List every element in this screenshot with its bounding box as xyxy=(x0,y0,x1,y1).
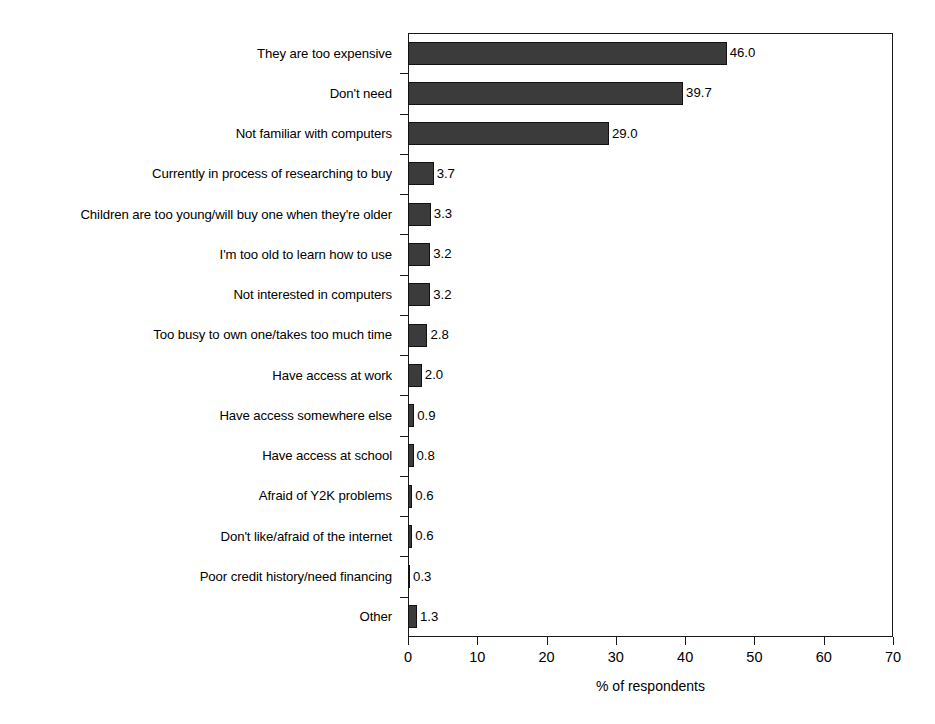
bar-value-label: 2.0 xyxy=(422,369,443,382)
bar-value-label: 0.6 xyxy=(412,530,433,543)
bar-row: 29.0 xyxy=(408,122,893,145)
category-label: They are too expensive xyxy=(0,47,392,60)
x-axis-tick-label: 40 xyxy=(665,650,705,665)
y-axis-tick xyxy=(400,556,408,557)
bar-row: 3.3 xyxy=(408,203,893,226)
y-axis-tick xyxy=(400,476,408,477)
bar-row: 0.8 xyxy=(408,444,893,467)
bar-row: 3.2 xyxy=(408,283,893,306)
x-axis-tick xyxy=(547,637,548,645)
category-label: Have access at work xyxy=(0,369,392,382)
category-label: Not familiar with computers xyxy=(0,127,392,140)
x-axis-tick xyxy=(685,637,686,645)
x-axis-tick-label: 50 xyxy=(734,650,774,665)
bar-value-label: 0.3 xyxy=(410,570,431,583)
x-axis-tick-label: 20 xyxy=(527,650,567,665)
y-axis-tick xyxy=(400,275,408,276)
x-axis-tick-label: 0 xyxy=(388,650,428,665)
bar-value-label: 0.6 xyxy=(412,489,433,502)
x-axis-tick-label: 10 xyxy=(457,650,497,665)
x-axis-title: % of respondents xyxy=(408,678,893,694)
bar-value-label: 3.3 xyxy=(431,208,452,221)
x-axis-tick xyxy=(893,637,894,645)
bar xyxy=(408,283,430,306)
x-axis-tick xyxy=(477,637,478,645)
y-axis-tick xyxy=(400,355,408,356)
bar-value-label: 1.3 xyxy=(417,610,438,623)
category-label: Other xyxy=(0,610,392,623)
bars-layer: 46.039.729.03.73.33.23.22.82.00.90.80.60… xyxy=(408,33,893,637)
category-label: Have access somewhere else xyxy=(0,409,392,422)
category-label: Too busy to own one/takes too much time xyxy=(0,328,392,341)
y-axis-tick xyxy=(400,315,408,316)
bar-row: 3.2 xyxy=(408,243,893,266)
bar-row: 2.8 xyxy=(408,324,893,347)
bar-value-label: 29.0 xyxy=(609,127,638,140)
bar xyxy=(408,203,431,226)
bar-row: 0.3 xyxy=(408,565,893,588)
bar-row: 2.0 xyxy=(408,364,893,387)
category-label: Currently in process of researching to b… xyxy=(0,167,392,180)
y-axis-tick xyxy=(400,436,408,437)
bar-value-label: 2.8 xyxy=(427,328,448,341)
bar-row: 0.9 xyxy=(408,404,893,427)
x-axis-tick xyxy=(754,637,755,645)
x-axis-tick xyxy=(824,637,825,645)
bar-row: 46.0 xyxy=(408,42,893,65)
x-axis-tick-label: 70 xyxy=(873,650,913,665)
y-axis-tick xyxy=(400,234,408,235)
y-axis-tick xyxy=(400,194,408,195)
bar-row: 39.7 xyxy=(408,82,893,105)
bar-value-label: 3.7 xyxy=(434,167,455,180)
bar xyxy=(408,243,430,266)
category-label: Not interested in computers xyxy=(0,288,392,301)
category-label: I'm too old to learn how to use xyxy=(0,248,392,261)
bar xyxy=(408,364,422,387)
y-axis-tick xyxy=(400,73,408,74)
bar-value-label: 3.2 xyxy=(430,288,451,301)
category-label: Afraid of Y2K problems xyxy=(0,489,392,502)
bar xyxy=(408,324,427,347)
bar-value-label: 39.7 xyxy=(683,87,712,100)
category-label: Don't like/afraid of the internet xyxy=(0,530,392,543)
y-axis-tick xyxy=(400,516,408,517)
bar-row: 3.7 xyxy=(408,162,893,185)
bar xyxy=(408,162,434,185)
y-axis-tick xyxy=(400,395,408,396)
y-axis-tick xyxy=(400,114,408,115)
x-axis-tick-label: 60 xyxy=(804,650,844,665)
bar-row: 0.6 xyxy=(408,525,893,548)
y-axis-tick xyxy=(400,597,408,598)
x-axis-tick xyxy=(408,637,409,645)
bar xyxy=(408,122,609,145)
category-label: Poor credit history/need financing xyxy=(0,570,392,583)
bar-row: 0.6 xyxy=(408,485,893,508)
x-axis-tick xyxy=(616,637,617,645)
bar-value-label: 3.2 xyxy=(430,248,451,261)
category-axis-labels: They are too expensiveDon't needNot fami… xyxy=(0,33,400,637)
bar xyxy=(408,42,727,65)
bar-row: 1.3 xyxy=(408,605,893,628)
bar xyxy=(408,605,417,628)
bar-chart: They are too expensiveDon't needNot fami… xyxy=(0,0,935,724)
category-label: Have access at school xyxy=(0,449,392,462)
y-axis-tick xyxy=(400,154,408,155)
bar xyxy=(408,82,683,105)
bar-value-label: 0.8 xyxy=(414,449,435,462)
bar-value-label: 46.0 xyxy=(727,47,756,60)
category-label: Children are too young/will buy one when… xyxy=(0,208,392,221)
bar-value-label: 0.9 xyxy=(414,409,435,422)
category-label: Don't need xyxy=(0,87,392,100)
x-axis-tick-label: 30 xyxy=(596,650,636,665)
